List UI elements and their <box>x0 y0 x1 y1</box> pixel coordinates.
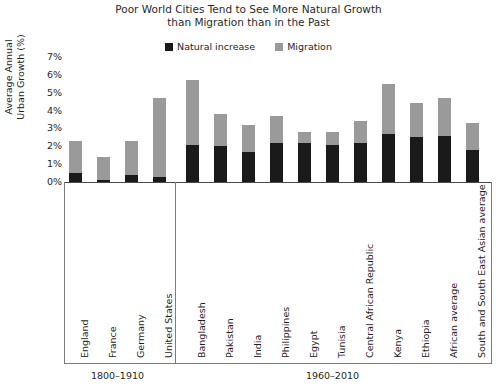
x-axis-label-germany: Germany <box>136 314 146 358</box>
x-axis-label-bangladesh: Bangladesh <box>197 302 207 358</box>
x-axis-label-philippines: Philippines <box>281 307 291 358</box>
x-axis-category-labels: EnglandFranceGermanyUnited StatesBanglad… <box>0 0 497 386</box>
period-label-1960-2010: 1960–2010 <box>186 370 479 381</box>
x-axis-label-tunisia: Tunisia <box>337 326 347 358</box>
x-axis-label-african-average: African average <box>449 283 459 358</box>
x-axis-label-pakistan: Pakistan <box>225 318 235 358</box>
x-axis-label-india: India <box>253 335 263 358</box>
x-axis-label-egypt: Egypt <box>309 331 319 358</box>
x-axis-label-central-african-republic: Central African Republic <box>365 244 375 358</box>
x-axis-label-united-states: United States <box>164 294 174 358</box>
x-axis-label-england: England <box>80 319 90 358</box>
x-axis-label-france: France <box>108 326 118 358</box>
period-label-1800-1910: 1800–1910 <box>69 370 166 381</box>
x-axis-label-ethiopia: Ethiopia <box>421 319 431 358</box>
x-axis-label-south-and-south-east-asian-average: South and South East Asian average <box>477 184 487 358</box>
x-axis-label-kenya: Kenya <box>393 329 403 358</box>
